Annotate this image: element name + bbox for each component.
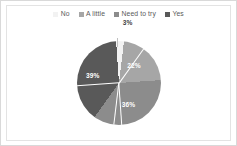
legend-label-no: No — [61, 11, 70, 18]
legend-swatch-need-to-try-icon — [114, 12, 119, 17]
legend-item-no[interactable]: No — [53, 11, 69, 18]
pie-container: 3% 22% 36% 39% — [69, 27, 169, 131]
data-label-yes: 39% — [86, 72, 100, 79]
data-label-need-to-try: 36% — [122, 101, 136, 108]
pie-plot-area: 3% 22% 36% 39% — [1, 27, 236, 139]
slice-divider-3 — [77, 82, 119, 86]
legend-label-a-little: A little — [86, 11, 105, 18]
pie-chart-card: No A little Need to try Yes 3% 22% — [0, 0, 237, 146]
pie-graphic[interactable] — [77, 41, 161, 125]
data-label-no: 3% — [123, 19, 133, 26]
data-label-a-little: 22% — [127, 62, 141, 69]
legend-item-a-little[interactable]: A little — [79, 11, 105, 18]
legend-label-yes: Yes — [172, 11, 183, 18]
chart-legend: No A little Need to try Yes — [1, 11, 236, 18]
slice-divider-2 — [113, 83, 119, 125]
legend-swatch-yes-icon — [165, 12, 170, 17]
legend-swatch-a-little-icon — [79, 12, 84, 17]
legend-item-need-to-try[interactable]: Need to try — [114, 11, 156, 18]
legend-swatch-no-icon — [53, 12, 58, 17]
legend-label-need-to-try: Need to try — [122, 11, 156, 18]
label-leader-line-no — [117, 38, 118, 47]
legend-item-yes[interactable]: Yes — [165, 11, 184, 18]
